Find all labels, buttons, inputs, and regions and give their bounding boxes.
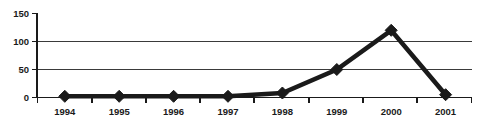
x-tick-labels: 1994 1995 1996 1997 1998 1999 2000 2001 <box>54 106 457 117</box>
chart-canvas: 150 100 50 0 <box>0 0 488 128</box>
data-markers <box>59 24 452 102</box>
x-tick-label-2000: 2000 <box>381 106 402 117</box>
data-point-1996 <box>168 90 180 102</box>
y-tick-label-100: 100 <box>13 36 29 47</box>
x-tick-label-2001: 2001 <box>435 106 457 117</box>
y-tick-label-50: 50 <box>18 64 29 75</box>
x-tick-label-1998: 1998 <box>272 106 293 117</box>
data-point-1995 <box>113 90 125 102</box>
line-chart: 150 100 50 0 <box>0 0 488 128</box>
y-tick-labels: 150 100 50 0 <box>13 8 29 103</box>
y-tick-label-150: 150 <box>13 8 29 19</box>
y-tick-label-0: 0 <box>24 92 29 103</box>
x-tick-label-1999: 1999 <box>326 106 347 117</box>
data-point-1994 <box>59 90 71 102</box>
data-point-1997 <box>222 90 234 102</box>
data-line <box>65 30 446 96</box>
series-line-group <box>65 30 446 96</box>
x-tick-label-1996: 1996 <box>163 106 184 117</box>
y-axis <box>32 13 37 98</box>
x-tick-label-1997: 1997 <box>217 106 238 117</box>
x-tick-label-1994: 1994 <box>54 106 76 117</box>
x-tick-label-1995: 1995 <box>109 106 131 117</box>
